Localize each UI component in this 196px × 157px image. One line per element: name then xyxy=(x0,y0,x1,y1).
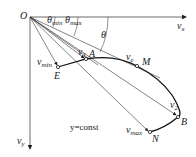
theta-label: θ xyxy=(101,30,106,40)
v1-label: v1 xyxy=(78,47,86,59)
vmax-label: vmax xyxy=(126,125,142,137)
vector-vmax xyxy=(30,17,148,131)
N-label: N xyxy=(152,134,159,144)
A-label: A xyxy=(89,49,95,59)
hodograph-curve xyxy=(58,58,180,132)
curve-label: y=const xyxy=(70,123,99,132)
point-E xyxy=(56,65,59,68)
vmin-label: vmin xyxy=(37,57,52,69)
vx-label: vx xyxy=(177,21,185,33)
theta-max-label: θmax xyxy=(65,15,82,27)
origin-label: O xyxy=(20,11,27,21)
point-M xyxy=(135,64,138,67)
M-label: M xyxy=(142,57,150,67)
point-B xyxy=(176,115,179,118)
theta-min-label: θmin xyxy=(47,15,62,27)
vy-label: vy xyxy=(17,136,25,148)
v2-label: v2 xyxy=(170,100,178,112)
hodograph-diagram xyxy=(0,0,196,157)
ve-label: ve xyxy=(126,52,134,64)
E-label: E xyxy=(54,71,60,81)
B-label: B xyxy=(181,117,187,127)
